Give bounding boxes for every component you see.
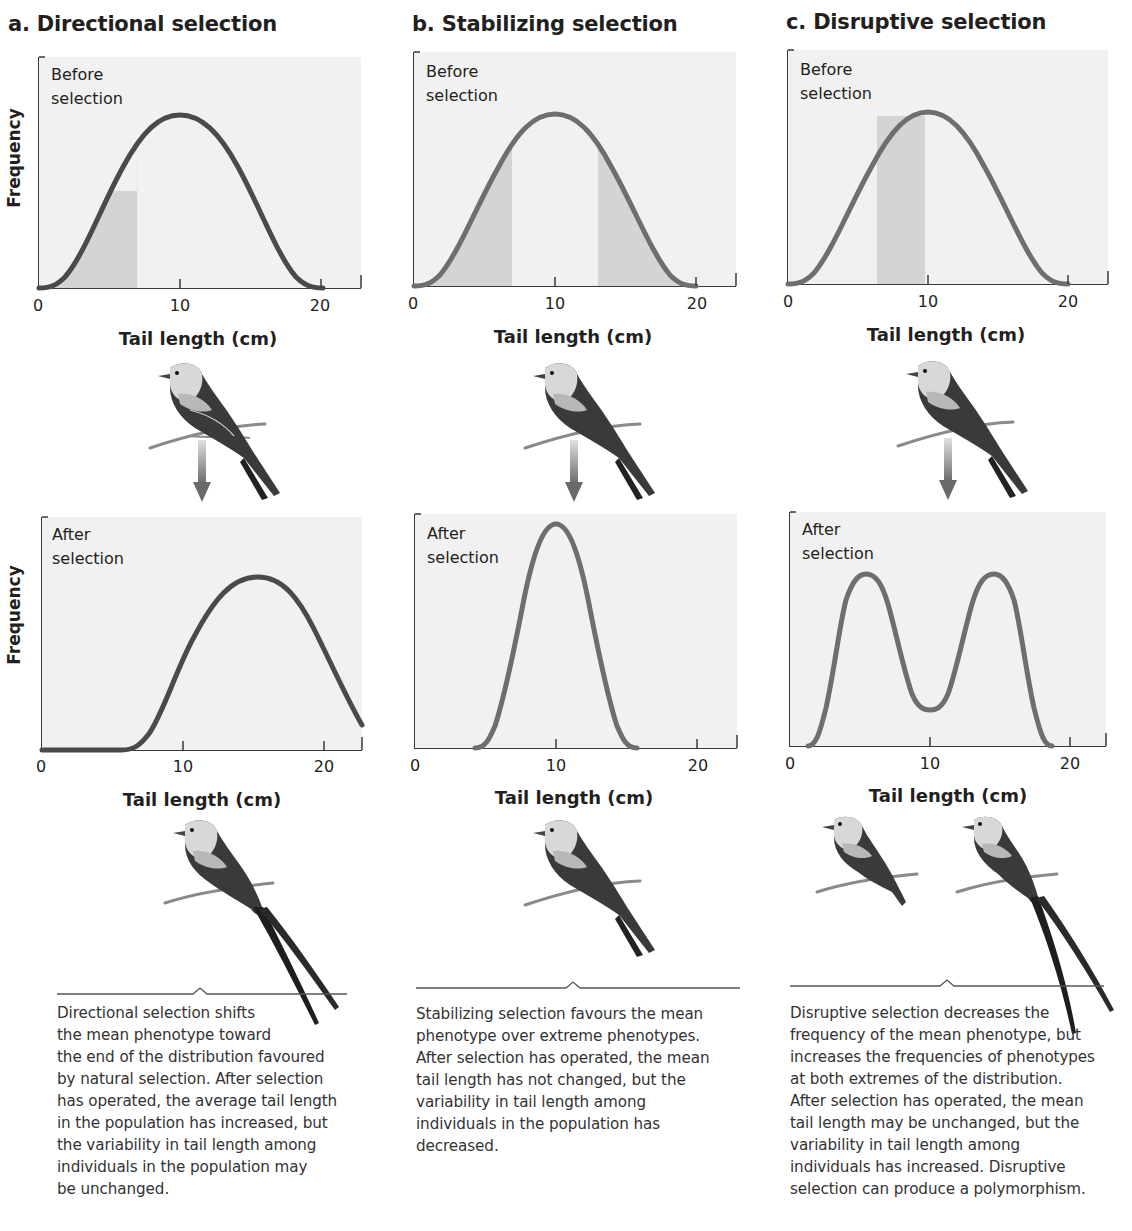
caption-directional: Directional selection shifts the mean ph…	[57, 1002, 337, 1200]
x-tick-0: 0	[33, 296, 43, 315]
after-selection-label: After selection	[427, 522, 499, 570]
down-arrow-icon	[939, 438, 957, 500]
chart-c-after: After selection	[789, 512, 1106, 747]
panel-a-title: a. Directional selection	[8, 12, 277, 36]
x-tick-0: 0	[408, 294, 418, 313]
x-axis-label: Tail length (cm)	[123, 789, 281, 810]
caption-divider	[57, 984, 347, 996]
chart-a-after: After selection	[41, 517, 362, 751]
x-axis-label: Tail length (cm)	[494, 326, 652, 347]
x-tick-10: 10	[920, 754, 940, 773]
x-tick-0: 0	[410, 756, 420, 775]
x-tick-20: 20	[1060, 754, 1080, 773]
x-tick-20: 20	[688, 756, 708, 775]
x-tick-0: 0	[785, 754, 795, 773]
panel-b-title: b. Stabilizing selection	[412, 12, 677, 36]
x-tick-20: 20	[314, 757, 334, 776]
caption-stabilizing: Stabilizing selection favours the mean p…	[416, 1003, 710, 1157]
down-arrow-icon	[565, 440, 583, 502]
bird-short-tail-icon	[515, 358, 675, 508]
bird-short-tail-icon	[515, 815, 675, 965]
chart-c-before: Before selection	[787, 50, 1108, 285]
bird-short-tail-icon	[140, 358, 300, 508]
panel-c-title: c. Disruptive selection	[786, 10, 1046, 34]
x-axis-label: Tail length (cm)	[869, 785, 1027, 806]
x-tick-10: 10	[545, 294, 565, 313]
before-selection-label: Before selection	[426, 60, 498, 108]
before-selection-label: Before selection	[800, 58, 872, 106]
x-tick-0: 0	[36, 757, 46, 776]
x-tick-10: 10	[170, 296, 190, 315]
after-selection-label: After selection	[52, 523, 124, 571]
bird-short-tail-icon	[888, 356, 1048, 506]
caption-disruptive: Disruptive selection decreases the frequ…	[790, 1002, 1095, 1200]
before-selection-label: Before selection	[51, 63, 123, 111]
caption-divider	[416, 978, 740, 990]
frequency-axis-label: Frequency	[4, 555, 24, 675]
x-tick-10: 10	[546, 756, 566, 775]
chart-b-before: Before selection	[413, 52, 736, 287]
down-arrow-icon	[193, 440, 211, 502]
x-tick-20: 20	[310, 296, 330, 315]
x-tick-0: 0	[783, 292, 793, 311]
chart-b-after: After selection	[414, 514, 737, 749]
bird-short-tail-icon	[812, 812, 932, 922]
x-axis-label: Tail length (cm)	[119, 328, 277, 349]
x-tick-10: 10	[173, 757, 193, 776]
x-tick-20: 20	[687, 294, 707, 313]
x-axis-label: Tail length (cm)	[867, 324, 1025, 345]
frequency-axis-label: Frequency	[4, 98, 24, 218]
x-tick-20: 20	[1058, 292, 1078, 311]
after-selection-label: After selection	[802, 518, 874, 566]
chart-a-before: Before selection	[38, 57, 361, 289]
caption-divider	[790, 976, 1104, 988]
x-axis-label: Tail length (cm)	[495, 787, 653, 808]
x-tick-10: 10	[918, 292, 938, 311]
